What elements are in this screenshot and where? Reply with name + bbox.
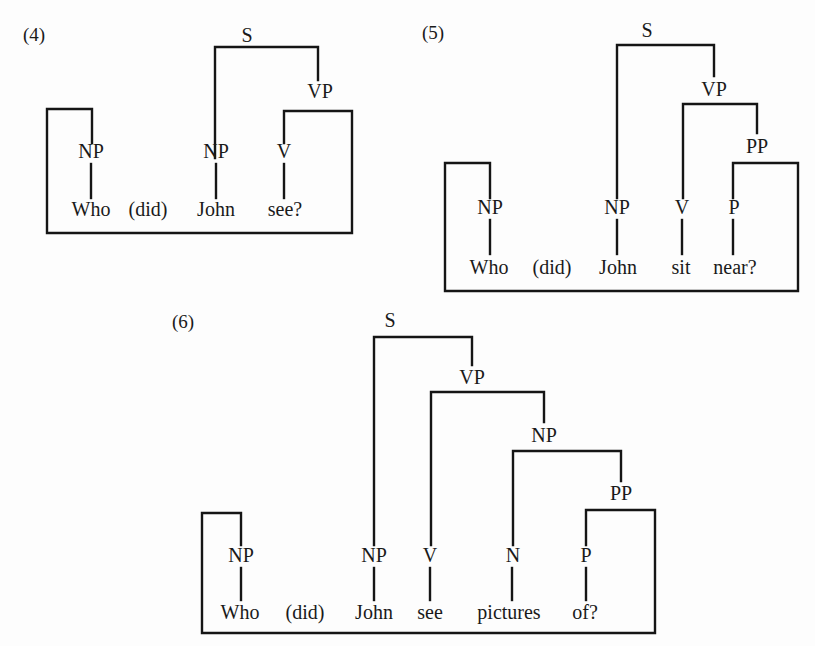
diagram-ex5: (5)SVPPPNPNPVPWho(did)Johnsitnear? [422,19,798,291]
tree-branch [374,337,472,545]
tree-branch [617,45,714,198]
tree-diagrams-figure: (4)SVPNPNPVWho(did)Johnsee? (5)SVPPPNPNP… [0,0,815,646]
terminal-word: John [355,601,393,623]
terminal-word: John [599,256,637,278]
diagram-ex4: (4)SVPNPNPVWho(did)Johnsee? [23,24,352,233]
terminal-word: Who [221,601,260,623]
example-number: (4) [23,24,45,46]
terminal-word: see [417,601,443,623]
terminal-word: (did) [286,601,325,624]
terminal-word: John [197,198,235,220]
terminal-word: (did) [129,198,168,221]
node-label-n: N [506,544,520,566]
node-label-np: NP [477,196,503,218]
node-label-np: NP [78,140,104,162]
terminal-word: Who [470,256,509,278]
node-label-pp: PP [746,135,768,157]
terminal-word: near? [713,256,756,278]
node-label-v: V [277,140,292,162]
terminal-word: Who [72,198,111,220]
node-label-np: NP [228,544,254,566]
example-number: (5) [422,22,444,44]
terminal-word: of? [572,601,598,623]
tree-branch [431,392,544,545]
node-label-p: P [728,196,739,218]
node-label-vp: VP [307,80,333,102]
node-label-np: NP [604,196,630,218]
node-label-np: NP [531,424,557,446]
terminal-word: pictures [477,601,541,624]
node-label-np: NP [361,544,387,566]
tree-branch [215,47,318,158]
node-label-v: V [423,544,438,566]
node-label-s: S [641,19,652,41]
node-label-p: P [580,544,591,566]
terminal-word: sit [672,256,691,278]
node-label-s: S [241,24,252,46]
node-label-s: S [384,309,395,331]
example-number: (6) [172,311,194,333]
terminal-word: see? [268,198,303,220]
node-label-np: NP [203,140,229,162]
node-label-vp: VP [701,78,727,100]
terminal-word: (did) [533,256,572,279]
tree-branch [513,451,621,545]
node-label-v: V [675,196,690,218]
node-label-vp: VP [459,366,485,388]
node-label-pp: PP [610,482,632,504]
diagram-ex6: (6)SVPNPPPNPNPVNPWho(did)Johnseepictures… [172,309,655,633]
